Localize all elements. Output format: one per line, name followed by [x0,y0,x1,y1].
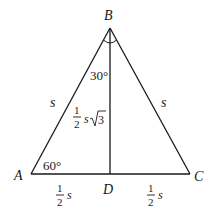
dc-label: 1 2 s [147,182,163,208]
ad-frac-den: 2 [57,196,63,208]
ad-frac-num: 1 [57,182,63,194]
vertex-label-b: B [104,8,113,23]
vertex-label-c: C [194,169,204,184]
side-label-bc: s [161,95,167,110]
ad-label: 1 2 s [56,182,72,208]
side-label-ab: s [50,95,56,110]
bd-radicand: 3 [98,113,104,127]
bd-frac-num: 1 [74,104,80,116]
dc-frac-den: 2 [148,196,154,208]
bd-frac-den: 2 [74,118,80,130]
angle-label-30: 30° [90,68,108,83]
side-bc [110,28,190,174]
vertex-label-d: D [102,182,113,197]
side-ab [31,28,110,174]
dc-frac-num: 1 [148,182,154,194]
ad-var: s [67,188,72,202]
triangle-diagram: B A C D 30° 60° s s 1 2 s 3 1 2 s 1 2 s [0,0,215,216]
dc-var: s [158,188,163,202]
altitude-label: 1 2 s 3 [73,104,106,130]
angle-label-60: 60° [43,158,61,173]
vertex-label-a: A [13,168,23,183]
bd-var: s [84,112,89,126]
